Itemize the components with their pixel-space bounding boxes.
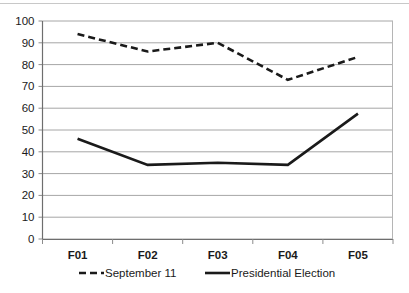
gridlines-group (43, 21, 394, 239)
legend-label-presidential-election: Presidential Election (231, 267, 335, 279)
x-tick-label-f04: F04 (278, 249, 298, 261)
y-tick-label: 30 (22, 168, 35, 180)
y-tick-label: 0 (28, 233, 34, 245)
y-tick-label: 100 (15, 15, 34, 27)
x-tick-label-f05: F05 (348, 249, 368, 261)
y-tick-label: 70 (22, 80, 35, 92)
series-line-september-11 (78, 34, 358, 80)
top-divider-rule (0, 3, 409, 4)
y-tick-label: 20 (22, 189, 35, 201)
y-tick-label: 80 (22, 59, 35, 71)
legend-item-presidential-election: Presidential Election (205, 267, 335, 279)
y-tick-label: 50 (22, 124, 35, 136)
y-axis-tick-labels: 0102030405060708090100 (15, 15, 34, 245)
series-line-presidential-election (78, 114, 358, 165)
chart-canvas: 0102030405060708090100 F01F02F03F04F05 S… (0, 0, 409, 293)
legend-item-september-11: September 11 (79, 267, 176, 279)
x-tick-label-f01: F01 (68, 249, 88, 261)
y-tick-label: 60 (22, 102, 35, 114)
y-tick-label: 90 (22, 37, 35, 49)
y-tick-label: 10 (22, 211, 35, 223)
line-chart-figure: 0102030405060708090100 F01F02F03F04F05 S… (0, 0, 409, 293)
legend-label-september-11: September 11 (105, 267, 176, 279)
chart-legend: September 11 Presidential Election (79, 267, 335, 279)
x-tick-label-f02: F02 (138, 249, 158, 261)
x-axis-tick-labels: F01F02F03F04F05 (68, 249, 369, 261)
x-tick-label-f03: F03 (208, 249, 228, 261)
y-tick-label: 40 (22, 146, 35, 158)
